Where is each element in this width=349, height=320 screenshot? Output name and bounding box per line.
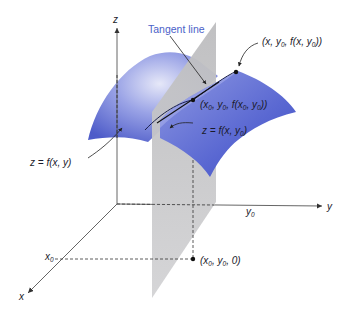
x0-label: x0 xyxy=(44,251,54,263)
y-axis-label: y xyxy=(326,201,333,212)
point-top xyxy=(234,70,238,74)
point-base-label: (x0, y0, 0) xyxy=(200,255,241,267)
z-axis-label: z xyxy=(112,14,118,25)
tangent-line-label: Tangent line xyxy=(148,23,205,35)
surface-label: z = f(x, y) xyxy=(29,157,71,168)
point-top-label: (x, y0, f(x, y0)) xyxy=(262,36,322,48)
point-top-leader-arrow xyxy=(239,43,258,66)
x-axis xyxy=(28,204,117,293)
partial-derivative-diagram: z y x x0 y0 Tangent line z = f(x, y) z =… xyxy=(0,0,349,320)
point-tangent xyxy=(191,98,195,102)
x-axis-label: x xyxy=(18,291,25,302)
point-base xyxy=(191,257,195,261)
y0-label: y0 xyxy=(245,206,255,218)
